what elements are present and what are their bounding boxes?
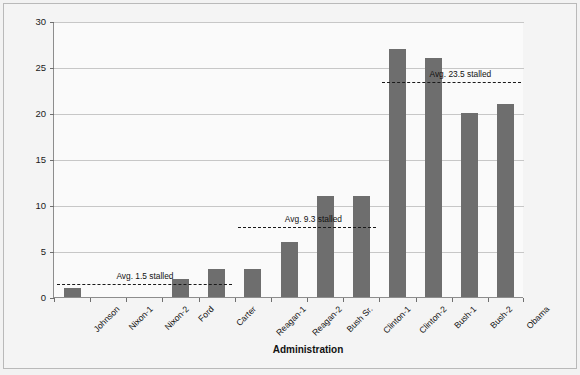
y-tick-label: 30 [6, 17, 46, 26]
x-tick-mark [452, 298, 453, 302]
y-tick-mark [50, 22, 54, 23]
y-tick-label: 15 [6, 155, 46, 164]
gridline [54, 22, 524, 23]
average-label: Avg. 23.5 stalled [429, 69, 491, 79]
x-tick-mark [235, 298, 236, 302]
bar [244, 269, 261, 297]
x-tick-mark [162, 298, 163, 302]
y-tick-mark [50, 68, 54, 69]
average-line [382, 82, 521, 83]
x-axis-title-text: Administration [237, 344, 344, 355]
y-tick-mark [50, 206, 54, 207]
x-tick-mark [488, 298, 489, 302]
bar [281, 242, 298, 297]
bar [172, 279, 189, 297]
x-tick-mark [199, 298, 200, 302]
x-tick-mark [416, 298, 417, 302]
bar [389, 49, 406, 297]
y-tick-label: 10 [6, 201, 46, 210]
bar [317, 196, 334, 297]
x-tick-mark [343, 298, 344, 302]
bar [497, 104, 514, 297]
x-tick-mark [523, 298, 524, 302]
y-tick-mark [50, 160, 54, 161]
bar [461, 113, 478, 297]
bar [353, 196, 370, 297]
gridline [54, 114, 524, 115]
gridline [54, 160, 524, 161]
average-line [238, 227, 377, 228]
plot-area: 051015202530JohnsonNixon-1Nixon-2FordCar… [53, 22, 523, 298]
x-tick-mark [90, 298, 91, 302]
y-tick-label: 5 [6, 247, 46, 256]
y-tick-label: 25 [6, 63, 46, 72]
x-tick-mark [379, 298, 380, 302]
y-tick-mark [50, 252, 54, 253]
gridline [54, 206, 524, 207]
bar [64, 288, 81, 297]
x-axis-title: Administration [0, 344, 580, 355]
y-tick-mark [50, 114, 54, 115]
x-tick-mark [126, 298, 127, 302]
x-tick-mark [271, 298, 272, 302]
y-tick-label: 0 [6, 293, 46, 302]
average-label: Avg. 1.5 stalled [116, 271, 173, 281]
bar [425, 58, 442, 297]
chart-figure: Nominations Stalled 051015202530JohnsonN… [0, 0, 580, 375]
average-label: Avg. 9.3 stalled [285, 214, 342, 224]
x-tick-mark [307, 298, 308, 302]
x-tick-mark [54, 298, 55, 302]
y-tick-label: 20 [6, 109, 46, 118]
average-line [57, 284, 232, 285]
